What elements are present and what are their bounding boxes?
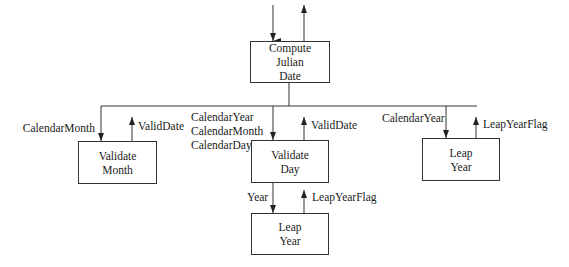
module-label: Year — [450, 160, 471, 174]
flow-label-valid-date: ValidDate — [311, 118, 357, 132]
module-label: Leap — [279, 220, 302, 234]
module-leap-year-bottom: Leap Year — [251, 213, 329, 255]
module-validate-month: Validate Month — [78, 141, 157, 184]
module-leap-year-right: Leap Year — [422, 138, 500, 181]
module-label: Day — [280, 162, 299, 176]
module-label: Validate — [271, 148, 309, 162]
module-label: Compute — [269, 41, 311, 55]
module-compute-julian-date: Compute Julian Date — [250, 41, 330, 83]
module-label: Validate — [99, 149, 137, 163]
flow-label-valid-date: ValidDate — [138, 119, 184, 133]
module-validate-day: Validate Day — [251, 140, 329, 183]
module-label: Julian — [276, 55, 303, 69]
flow-label-calendar-month: CalendarMonth — [0, 121, 95, 135]
flow-label-year: Year — [247, 190, 268, 204]
flow-label-calendar-day: CalendarDay — [191, 138, 252, 152]
module-label: Year — [279, 234, 300, 248]
flow-label-leap-year-flag: LeapYearFlag — [312, 190, 377, 204]
flow-label-calendar-year: CalendarYear — [191, 110, 254, 124]
module-label: Leap — [450, 146, 473, 160]
flow-label-calendar-month: CalendarMonth — [191, 124, 263, 138]
module-label: Date — [279, 69, 301, 83]
module-label: Month — [102, 163, 133, 177]
flow-label-calendar-year: CalendarYear — [382, 111, 445, 125]
flow-label-leap-year-flag: LeapYearFlag — [483, 117, 548, 131]
